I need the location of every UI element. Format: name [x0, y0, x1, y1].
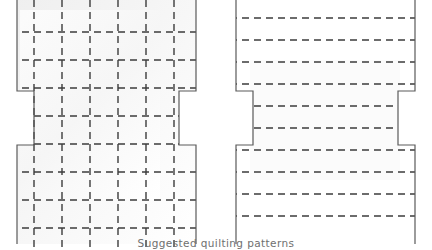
left-quilting-diagram: [10, 0, 205, 250]
left-shape-fill: [17, 0, 196, 244]
quilting-patterns-canvas: [0, 0, 432, 250]
figure-caption: Suggested quilting patterns: [0, 236, 432, 250]
right-quilting-diagram: [230, 0, 422, 244]
quilting-patterns-figure: Suggested quilting patterns: [0, 0, 432, 250]
right-shape-fill: [236, 0, 415, 244]
